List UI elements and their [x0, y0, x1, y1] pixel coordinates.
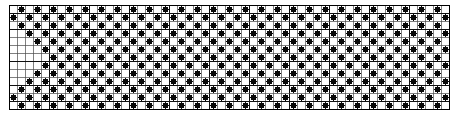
- pattern-dot: [18, 22, 24, 28]
- pattern-dot: [66, 70, 72, 76]
- pattern-dot: [378, 62, 384, 68]
- pattern-dot: [210, 38, 216, 44]
- pattern-dot: [330, 14, 336, 20]
- pattern-dot: [266, 30, 272, 36]
- pattern-dot: [314, 94, 320, 100]
- pattern-dot: [218, 78, 224, 84]
- pattern-dot: [370, 70, 376, 76]
- pattern-dot: [402, 6, 408, 12]
- pattern-dot: [434, 22, 440, 28]
- pattern-dot: [194, 6, 200, 12]
- pattern-dot: [106, 94, 112, 100]
- pattern-dot: [258, 22, 264, 28]
- pattern-dot: [210, 6, 216, 12]
- pattern-dot: [82, 70, 88, 76]
- pattern-dot: [186, 14, 192, 20]
- pattern-dot: [274, 86, 280, 92]
- pattern-dot: [138, 94, 144, 100]
- pattern-dot: [394, 14, 400, 20]
- pattern-dot: [58, 94, 64, 100]
- pattern-dot: [410, 62, 416, 68]
- pattern-dot: [194, 70, 200, 76]
- pattern-dot: [210, 70, 216, 76]
- pattern-dot: [122, 46, 128, 52]
- pattern-dot: [234, 46, 240, 52]
- pattern-dot: [90, 62, 96, 68]
- pattern-dot: [10, 14, 16, 20]
- pattern-dot: [162, 102, 168, 108]
- pattern-dot: [434, 38, 440, 44]
- pattern-dot: [426, 94, 432, 100]
- pattern-dot: [186, 78, 192, 84]
- pattern-dot: [442, 62, 448, 68]
- pattern-dot: [426, 62, 432, 68]
- pattern-dot: [370, 86, 376, 92]
- pattern-dot: [202, 62, 208, 68]
- pattern-dot: [290, 102, 296, 108]
- pattern-dot: [50, 70, 56, 76]
- pattern-dot: [50, 38, 56, 44]
- pattern-dot: [42, 78, 48, 84]
- pattern-dot: [322, 86, 328, 92]
- pattern-dot: [162, 6, 168, 12]
- pattern-dot: [178, 6, 184, 12]
- pattern-dot: [66, 38, 72, 44]
- pattern-dot: [258, 70, 264, 76]
- pattern-dot: [274, 70, 280, 76]
- pattern-dot: [314, 46, 320, 52]
- pattern-dot: [106, 46, 112, 52]
- pattern-dot: [130, 54, 136, 60]
- pattern-dot: [306, 102, 312, 108]
- pattern-dot: [98, 6, 104, 12]
- pattern-dot: [290, 70, 296, 76]
- pattern-dot: [146, 70, 152, 76]
- pattern-dot: [58, 30, 64, 36]
- pattern-dot: [66, 22, 72, 28]
- pattern-dot: [58, 78, 64, 84]
- pattern-dot: [402, 22, 408, 28]
- pattern-dot: [346, 46, 352, 52]
- pattern-dot: [90, 94, 96, 100]
- pattern-dot: [378, 30, 384, 36]
- pattern-dot: [82, 6, 88, 12]
- pattern-dot: [186, 46, 192, 52]
- pattern-dot: [82, 22, 88, 28]
- pattern-dot: [186, 62, 192, 68]
- pattern-dot: [394, 94, 400, 100]
- pattern-dot: [322, 54, 328, 60]
- pattern-dot: [354, 54, 360, 60]
- pattern-dot: [26, 30, 32, 36]
- pattern-dot: [106, 62, 112, 68]
- pattern-dot: [434, 86, 440, 92]
- pattern-dot: [322, 6, 328, 12]
- pattern-dot: [354, 6, 360, 12]
- pattern-dot: [250, 30, 256, 36]
- pattern-dot: [242, 70, 248, 76]
- pattern-dot: [386, 86, 392, 92]
- pattern-dot: [178, 102, 184, 108]
- pattern-dot: [362, 94, 368, 100]
- pattern-dot: [138, 14, 144, 20]
- pattern-dot: [234, 14, 240, 20]
- pattern-dot: [170, 30, 176, 36]
- pattern-dot: [66, 6, 72, 12]
- pattern-dot: [346, 94, 352, 100]
- pattern-dot: [170, 78, 176, 84]
- pattern-dot: [330, 94, 336, 100]
- pattern-dot: [242, 86, 248, 92]
- pattern-dot: [346, 78, 352, 84]
- pattern-dot: [74, 14, 80, 20]
- pattern-dot: [354, 102, 360, 108]
- pattern-dot: [386, 54, 392, 60]
- pattern-dot: [114, 6, 120, 12]
- pattern-dot: [170, 62, 176, 68]
- pattern-dot: [258, 86, 264, 92]
- pattern-dot: [402, 70, 408, 76]
- pattern-dot: [354, 22, 360, 28]
- pattern-dot: [306, 54, 312, 60]
- pattern-dot: [106, 14, 112, 20]
- pattern-dot: [258, 102, 264, 108]
- pattern-dot: [306, 22, 312, 28]
- pattern-dot: [202, 30, 208, 36]
- pattern-dot: [410, 46, 416, 52]
